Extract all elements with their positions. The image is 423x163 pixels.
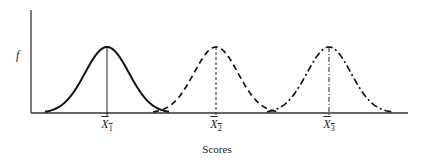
chart-canvas [0,0,423,163]
y-axis-label: f [16,48,19,63]
x-tick-mean-2: X2 [210,117,221,133]
curve-dash-dot [267,47,393,112]
x-tick-mean-3: X3 [323,117,334,133]
x-tick-mean-1: X1 [101,117,112,133]
x-axis-label: Scores [202,143,231,155]
